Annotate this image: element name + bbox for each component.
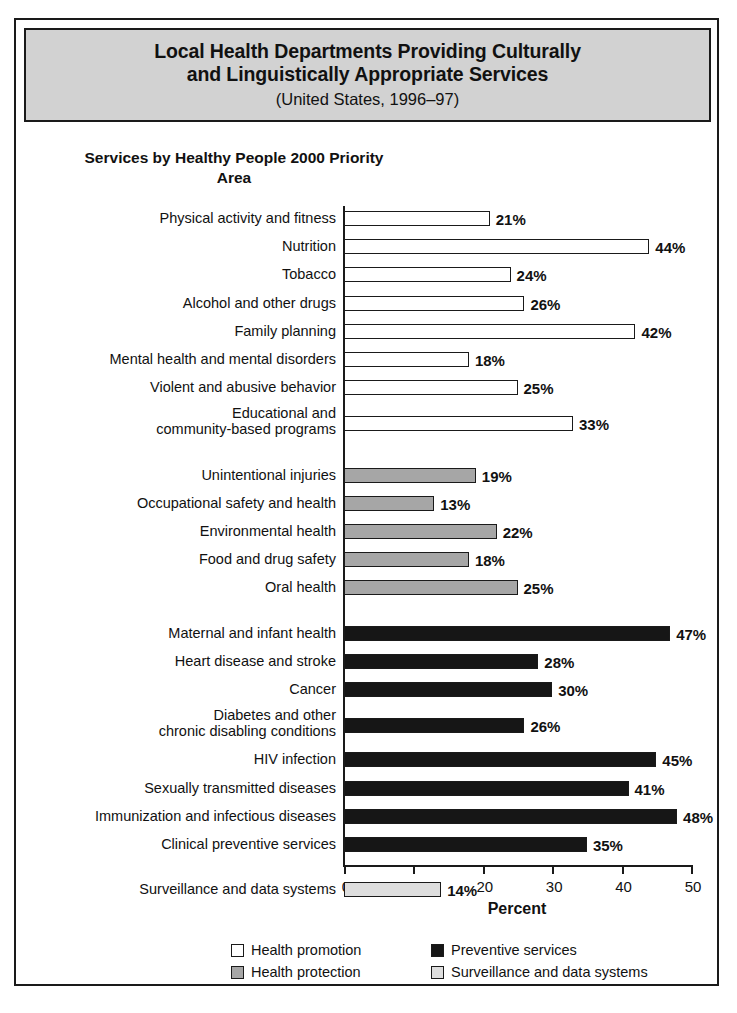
bar-value-label: 21% [496, 212, 526, 227]
bar [344, 682, 552, 697]
bar-row-label: Mental health and mental disorders [36, 351, 336, 367]
bar-row: HIV infection45% [16, 751, 721, 771]
bar-value-label: 24% [517, 268, 547, 283]
bar [344, 752, 656, 767]
legend-label: Preventive services [451, 942, 577, 958]
bar-row: Surveillance and data systems14% [16, 881, 721, 901]
bar-row-label: Educational and community-based programs [36, 405, 336, 437]
legend-entry: Preventive services [431, 942, 671, 958]
bar-row: Clinical preventive services35% [16, 836, 721, 856]
bar-row: Educational and community-based programs… [16, 407, 721, 427]
legend-entry: Surveillance and data systems [431, 964, 671, 980]
bar-row: Physical activity and fitness21% [16, 210, 721, 230]
bar-value-label: 13% [440, 497, 470, 512]
bar [344, 781, 629, 796]
bar-value-label: 18% [475, 353, 505, 368]
bar-row-label: Maternal and infant health [36, 625, 336, 641]
bar [344, 882, 441, 897]
bar [344, 654, 538, 669]
bar-row: Alcohol and other drugs26% [16, 295, 721, 315]
legend-swatch-icon [431, 944, 444, 957]
bar-value-label: 47% [676, 627, 706, 642]
bar-row: Heart disease and stroke28% [16, 653, 721, 673]
bar-value-label: 26% [530, 719, 560, 734]
bar [344, 496, 434, 511]
bar-row: Maternal and infant health47% [16, 625, 721, 645]
bar-value-label: 18% [475, 553, 505, 568]
bar-row: Violent and abusive behavior25% [16, 379, 721, 399]
bar-row-label: Family planning [36, 323, 336, 339]
bar-row-label: Alcohol and other drugs [36, 295, 336, 311]
bar-row-label: Occupational safety and health [36, 495, 336, 511]
bar-value-label: 22% [503, 525, 533, 540]
bar-row-label: Nutrition [36, 238, 336, 254]
x-tick-40 [622, 865, 624, 874]
bar-value-label: 35% [593, 838, 623, 853]
legend-swatch-icon [431, 966, 444, 979]
bar [344, 296, 524, 311]
bar [344, 380, 518, 395]
x-axis-label: Percent [343, 900, 691, 918]
bar-row: Oral health25% [16, 579, 721, 599]
bar-value-label: 28% [544, 655, 574, 670]
bar [344, 267, 511, 282]
legend-label: Health promotion [251, 942, 361, 958]
bar-row: Diabetes and other chronic disabling con… [16, 709, 721, 729]
bar [344, 211, 490, 226]
bar-row-label: Unintentional injuries [36, 467, 336, 483]
bar-row-label: Immunization and infectious diseases [36, 808, 336, 824]
legend-swatch-icon [231, 944, 244, 957]
bar-chart: 01020304050 Physical activity and fitnes… [16, 20, 721, 988]
bar-value-label: 33% [579, 417, 609, 432]
bar-value-label: 30% [558, 683, 588, 698]
bar-row: Occupational safety and health13% [16, 495, 721, 515]
bar-row: Unintentional injuries19% [16, 467, 721, 487]
bar-row: Sexually transmitted diseases41% [16, 780, 721, 800]
bar-value-label: 19% [482, 469, 512, 484]
legend-entry: Health promotion [231, 942, 431, 958]
bar-value-label: 42% [641, 325, 671, 340]
bar-value-label: 25% [524, 381, 554, 396]
legend-entry: Health protection [231, 964, 431, 980]
bar-row-label: Environmental health [36, 523, 336, 539]
bar-row-label: Violent and abusive behavior [36, 379, 336, 395]
x-axis-line [343, 865, 691, 867]
x-tick-50 [691, 865, 693, 874]
bar-row: Immunization and infectious diseases48% [16, 808, 721, 828]
bar [344, 809, 677, 824]
legend-swatch-icon [231, 966, 244, 979]
bar-row: Cancer30% [16, 681, 721, 701]
legend-label: Health protection [251, 964, 361, 980]
bar-value-label: 41% [635, 782, 665, 797]
bar [344, 837, 587, 852]
bar-row: Tobacco24% [16, 266, 721, 286]
legend-label: Surveillance and data systems [451, 964, 648, 980]
bar [344, 324, 635, 339]
bar [344, 524, 497, 539]
bar [344, 718, 524, 733]
bar-row-label: Physical activity and fitness [36, 210, 336, 226]
bar-row-label: Heart disease and stroke [36, 653, 336, 669]
bar-row-label: Cancer [36, 681, 336, 697]
bar-value-label: 44% [655, 240, 685, 255]
bar-row: Mental health and mental disorders18% [16, 351, 721, 371]
bar-value-label: 26% [530, 297, 560, 312]
bar-value-label: 25% [524, 581, 554, 596]
chart-legend: Health promotionPreventive servicesHealt… [231, 942, 671, 980]
bar-row-label: Sexually transmitted diseases [36, 780, 336, 796]
bar [344, 468, 476, 483]
figure-frame: Local Health Departments Providing Cultu… [14, 18, 719, 986]
x-tick-30 [552, 865, 554, 874]
bar-row-label: HIV infection [36, 751, 336, 767]
bar-row-label: Tobacco [36, 266, 336, 282]
bar [344, 552, 469, 567]
x-tick-10 [413, 865, 415, 874]
bar [344, 416, 573, 431]
bar [344, 352, 469, 367]
bar-row-label: Surveillance and data systems [36, 881, 336, 897]
bar-row: Environmental health22% [16, 523, 721, 543]
x-tick-20 [483, 865, 485, 874]
bar-row-label: Clinical preventive services [36, 836, 336, 852]
x-tick-0 [344, 865, 346, 874]
bar [344, 239, 649, 254]
